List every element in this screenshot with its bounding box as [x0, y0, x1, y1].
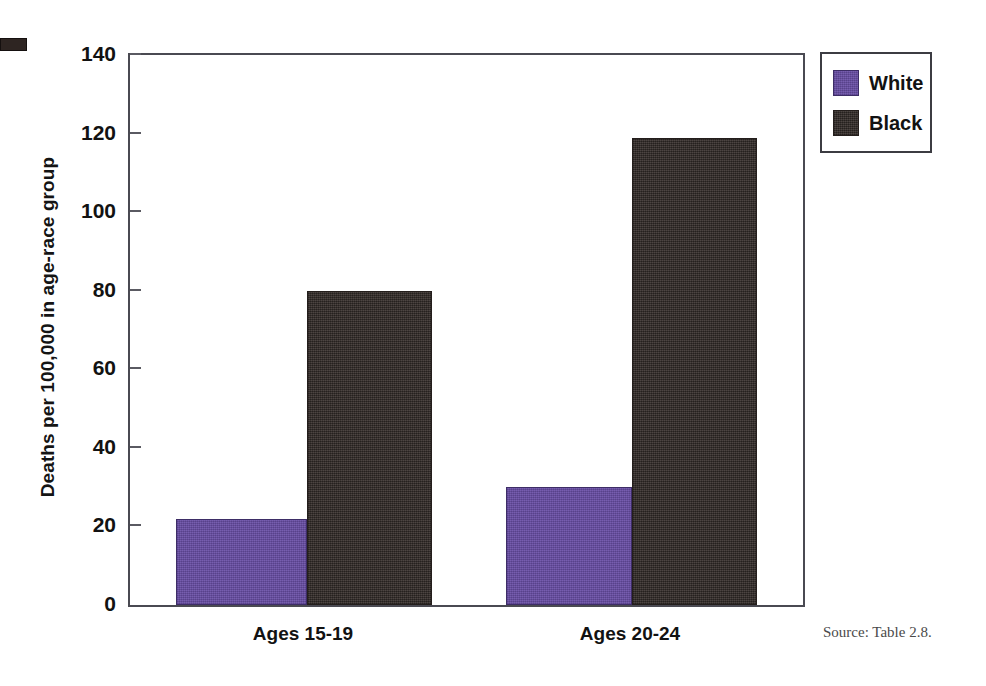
legend-label-white: White: [869, 72, 923, 95]
y-tick-60: 60: [130, 367, 141, 369]
y-tick-label-40: 40: [52, 435, 116, 459]
bar-white-ages-15-19[interactable]: [176, 519, 307, 605]
y-tick-40: 40: [130, 446, 141, 448]
y-tick-label-0: 0: [52, 592, 116, 616]
y-tick-label-80: 80: [52, 278, 116, 302]
y-tick-20: 20: [130, 524, 141, 526]
y-tick-80: 80: [130, 289, 141, 291]
chart-legend: White Black: [820, 52, 932, 153]
y-axis-title: Deaths per 100,000 in age-race group: [37, 67, 59, 587]
legend-swatch-black-icon: [833, 110, 859, 136]
y-tick-120: 120: [130, 132, 141, 134]
y-tick-label-60: 60: [52, 356, 116, 380]
x-category-label-ages-20-24: Ages 20-24: [504, 623, 756, 645]
legend-item-black[interactable]: Black: [833, 103, 930, 143]
bar-chart-figure: Deaths per 100,000 in age-race group 140…: [0, 0, 986, 686]
y-tick-140: 140: [130, 53, 141, 55]
plot-inner: 140 120 100 80 60 40 20 0: [130, 55, 803, 605]
bar-black-ages-20-24[interactable]: [632, 138, 757, 606]
y-tick-label-120: 120: [52, 121, 116, 145]
y-tick-label-140: 140: [52, 42, 116, 66]
plot-area: 140 120 100 80 60 40 20 0: [128, 53, 805, 607]
source-note: Source: Table 2.8.: [823, 624, 932, 641]
bar-white-ages-20-24[interactable]: [506, 487, 632, 605]
legend-swatch-white-icon: [833, 70, 859, 96]
legend-item-white[interactable]: White: [833, 63, 930, 103]
bar-black-ages-15-19[interactable]: [307, 291, 432, 605]
y-tick-100: 100: [130, 210, 141, 212]
y-tick-label-100: 100: [52, 199, 116, 223]
y-tick-label-20: 20: [52, 513, 116, 537]
x-category-label-ages-15-19: Ages 15-19: [174, 623, 432, 645]
legend-label-black: Black: [869, 112, 922, 135]
